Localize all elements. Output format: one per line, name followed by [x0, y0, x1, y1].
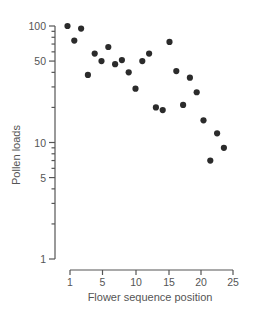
x-axis: 1510152025: [67, 270, 239, 288]
y-tick-label: 50: [34, 55, 46, 67]
y-axis: 151050100: [28, 20, 55, 265]
data-point: [166, 39, 172, 45]
data-point: [71, 37, 77, 43]
scatter-chart: 151050100 1510152025 Pollen loads Flower…: [0, 0, 255, 314]
data-point: [112, 61, 118, 67]
data-point: [187, 75, 193, 81]
data-point: [78, 25, 84, 31]
data-point: [139, 58, 145, 64]
y-tick-label: 1: [40, 253, 46, 265]
data-point: [119, 57, 125, 63]
data-point: [126, 69, 132, 75]
y-tick-label: 10: [34, 137, 46, 149]
data-point: [207, 157, 213, 163]
x-tick-label: 1: [67, 276, 73, 288]
data-point: [105, 44, 111, 50]
x-axis-label: Flower sequence position: [88, 291, 213, 303]
y-tick-label: 100: [28, 20, 46, 32]
data-point: [64, 23, 70, 29]
y-tick-label: 5: [40, 172, 46, 184]
data-point: [92, 50, 98, 56]
data-point: [221, 145, 227, 151]
data-point: [214, 130, 220, 136]
x-tick-label: 15: [163, 276, 175, 288]
data-point: [194, 89, 200, 95]
y-axis-label: Pollen loads: [10, 125, 22, 185]
data-point: [173, 68, 179, 74]
data-point: [200, 117, 206, 123]
x-tick-label: 10: [130, 276, 142, 288]
data-point: [85, 72, 91, 78]
x-tick-label: 25: [227, 276, 239, 288]
data-points: [64, 23, 227, 164]
data-point: [180, 102, 186, 108]
data-point: [160, 107, 166, 113]
data-point: [98, 58, 104, 64]
x-tick-label: 5: [100, 276, 106, 288]
data-point: [153, 104, 159, 110]
data-point: [146, 50, 152, 56]
data-point: [132, 86, 138, 92]
x-tick-label: 20: [195, 276, 207, 288]
